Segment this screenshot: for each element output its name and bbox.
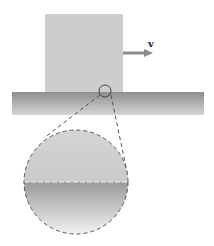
magnified-view <box>24 130 128 234</box>
friction-diagram: v <box>0 0 214 246</box>
floor-surface <box>12 92 204 115</box>
block <box>45 14 123 92</box>
velocity-arrow <box>123 49 153 57</box>
velocity-label: v <box>148 38 154 49</box>
diagram-canvas <box>0 0 214 246</box>
